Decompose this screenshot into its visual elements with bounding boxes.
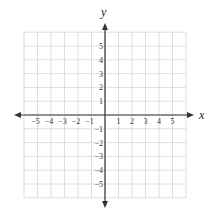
x-tick-label: 4 [157, 117, 161, 126]
y-tick-label: 1 [99, 97, 103, 106]
x-tick-label: 2 [130, 117, 134, 126]
x-tick-label: 5 [171, 117, 175, 126]
y-tick-label: 2 [99, 83, 103, 92]
x-tick-label: −5 [31, 117, 40, 126]
x-axis [14, 112, 194, 118]
y-tick-label: −1 [94, 125, 103, 134]
y-tick-label: −4 [94, 166, 103, 175]
x-axis-label: x [198, 108, 205, 122]
x-tick-label: −2 [72, 117, 81, 126]
x-axis-right-arrow-icon [187, 112, 194, 118]
y-tick-label: −3 [94, 152, 103, 161]
y-tick-label: −2 [94, 139, 103, 148]
y-tick-label: 3 [99, 70, 103, 79]
coordinate-plane: x y −5−4−3−2−112345 54321−1−2−3−4−5 [0, 0, 213, 214]
x-tick-label: −3 [58, 117, 67, 126]
x-axis-left-arrow-icon [14, 112, 21, 118]
x-tick-label: −4 [45, 117, 54, 126]
x-tick-label: 1 [117, 117, 121, 126]
y-tick-label: 5 [99, 42, 103, 51]
y-tick-label: −5 [94, 180, 103, 189]
x-tick-label: −1 [85, 117, 94, 126]
y-tick-label: 4 [99, 56, 103, 65]
y-axis-down-arrow-icon [102, 201, 108, 208]
x-tick-label: 3 [144, 117, 148, 126]
y-axis-up-arrow-icon [102, 23, 108, 30]
y-axis-label: y [100, 5, 107, 19]
